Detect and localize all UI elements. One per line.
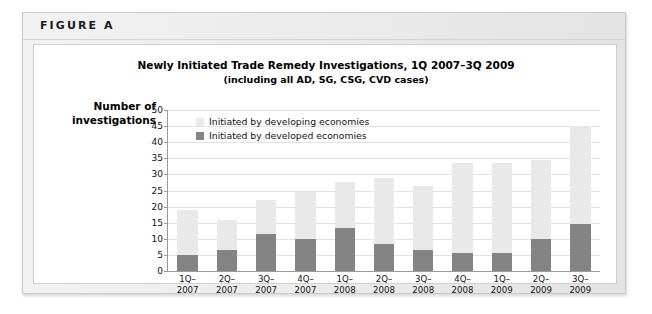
x-axis-label-line: 2008	[404, 285, 443, 296]
legend-label-developing: Initiated by developing economies	[209, 116, 369, 127]
x-axis-label-line: 2009	[482, 285, 521, 296]
bar-segment-developed	[452, 253, 472, 271]
x-axis-label-line: 2Q–	[521, 274, 560, 285]
x-axis-label: 2Q–2009	[521, 274, 560, 296]
bar-segment-developed	[295, 239, 315, 271]
x-axis-label-line: 2009	[521, 285, 560, 296]
bar-segment-developed	[492, 253, 512, 271]
x-axis-label-line: 2008	[364, 285, 403, 296]
bar-group	[492, 110, 512, 271]
x-axis-label-line: 2008	[443, 285, 482, 296]
bar-segment-developing	[413, 186, 433, 250]
bar-segment-developing	[374, 178, 394, 244]
y-tick-label: 0	[137, 267, 163, 276]
x-axis-label: 3Q–2009	[561, 274, 600, 296]
bar-segment-developing	[217, 220, 237, 251]
x-axis-label: 4Q–2007	[286, 274, 325, 296]
bar-segment-developed	[531, 239, 551, 271]
bar-segment-developed	[570, 224, 590, 271]
bar-segment-developing	[177, 210, 197, 255]
bar-segment-developing	[492, 163, 512, 253]
y-tick-label: 50	[137, 106, 163, 115]
legend-item-developing: Initiated by developing economies	[196, 115, 369, 128]
x-axis-label: 2Q–2008	[364, 274, 403, 296]
y-tick-label: 40	[137, 138, 163, 147]
x-axis-label-line: 4Q–	[286, 274, 325, 285]
x-axis-label: 3Q–2007	[247, 274, 286, 296]
y-tick-label: 35	[137, 154, 163, 163]
y-tick-label: 30	[137, 170, 163, 179]
bar-group	[570, 110, 590, 271]
x-axis-label-line: 2Q–	[364, 274, 403, 285]
y-tick-label: 5	[137, 250, 163, 259]
bar-segment-developing	[531, 160, 551, 239]
bar-segment-developed	[374, 244, 394, 271]
legend-swatch-developed	[196, 132, 204, 140]
bar-group	[413, 110, 433, 271]
bar-segment-developing	[256, 200, 276, 234]
bar-segment-developed	[177, 255, 197, 271]
bar-group	[452, 110, 472, 271]
bar-segment-developed	[256, 234, 276, 271]
x-axis-label-line: 1Q–	[325, 274, 364, 285]
y-tick-label: 10	[137, 234, 163, 243]
y-tick-label: 45	[137, 122, 163, 131]
x-axis-label: 2Q–2007	[207, 274, 246, 296]
x-axis-label-line: 2008	[325, 285, 364, 296]
chart-legend: Initiated by developing economies Initia…	[196, 115, 369, 143]
bar-segment-developed	[335, 228, 355, 271]
bar-segment-developing	[335, 182, 355, 227]
y-tick-label: 20	[137, 202, 163, 211]
x-axis-label-line: 2007	[247, 285, 286, 296]
figure-label: FIGURE A	[40, 19, 115, 32]
legend-swatch-developing	[196, 118, 204, 126]
x-axis-label-line: 2007	[207, 285, 246, 296]
x-axis-label-line: 3Q–	[561, 274, 600, 285]
x-axis-label-line: 1Q–	[482, 274, 521, 285]
x-axis-label-line: 1Q–	[168, 274, 207, 285]
bar-segment-developing	[452, 163, 472, 253]
x-axis-label-line: 4Q–	[443, 274, 482, 285]
legend-item-developed: Initiated by developed economies	[196, 129, 369, 142]
bar-group	[531, 110, 551, 271]
figure-screenshot: FIGURE A Newly Initiated Trade Remedy In…	[0, 0, 652, 314]
bar-group	[374, 110, 394, 271]
x-axis-label-line: 2007	[168, 285, 207, 296]
bar-segment-developing	[295, 192, 315, 239]
x-axis-label: 3Q–2008	[404, 274, 443, 296]
x-axis-label-line: 2007	[286, 285, 325, 296]
chart-title: Newly Initiated Trade Remedy Investigati…	[34, 59, 618, 72]
x-axis-label-line: 2009	[561, 285, 600, 296]
x-axis-label: 1Q–2008	[325, 274, 364, 296]
x-axis-label: 1Q–2009	[482, 274, 521, 296]
x-axis-label-line: 3Q–	[247, 274, 286, 285]
y-tick-mark	[164, 271, 168, 272]
y-tick-label: 15	[137, 218, 163, 227]
y-tick-label: 25	[137, 186, 163, 195]
legend-label-developed: Initiated by developed economies	[209, 130, 367, 141]
bar-segment-developing	[570, 126, 590, 224]
x-axis-label: 1Q–2007	[168, 274, 207, 296]
x-axis-label: 4Q–2008	[443, 274, 482, 296]
bar-segment-developed	[413, 250, 433, 271]
x-axis-label-line: 3Q–	[404, 274, 443, 285]
bar-group	[177, 110, 197, 271]
x-axis-label-line: 2Q–	[207, 274, 246, 285]
bar-segment-developed	[217, 250, 237, 271]
figure-header-band: FIGURE A	[23, 13, 625, 40]
figure-frame: FIGURE A Newly Initiated Trade Remedy In…	[22, 12, 626, 294]
chart-card: Newly Initiated Trade Remedy Investigati…	[33, 44, 617, 284]
chart-subtitle: (including all AD, SG, CSG, CVD cases)	[34, 73, 618, 86]
